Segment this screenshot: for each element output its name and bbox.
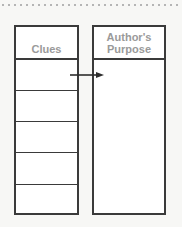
clue-row-5[interactable] [16,185,77,213]
clue-row-2[interactable] [16,91,77,122]
dotted-top-border [0,4,182,6]
clue-row-1[interactable] [16,60,77,91]
clues-header-label: Clues [32,43,62,55]
clue-row-4[interactable] [16,153,77,185]
authors-purpose-column: Author's Purpose [92,25,166,215]
authors-purpose-header: Author's Purpose [94,27,164,60]
clues-column: Clues [14,25,79,215]
arrow-right-icon [70,72,104,78]
clues-header: Clues [16,27,77,60]
authors-purpose-header-line2: Purpose [107,43,151,55]
clue-row-3[interactable] [16,122,77,153]
authors-purpose-header-line1: Author's [107,31,152,43]
authors-purpose-answer-area[interactable] [94,60,164,213]
